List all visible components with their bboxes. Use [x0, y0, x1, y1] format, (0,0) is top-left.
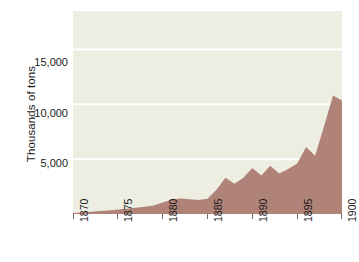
axis-tick-1895 [297, 214, 298, 219]
y-axis-tick-labels: 15,000 10,000 5,000 [12, 0, 68, 262]
x-tick-label-1885: 1885 [212, 199, 224, 222]
x-tick-label-1875: 1875 [122, 199, 134, 222]
axis-tick-1875 [117, 214, 118, 219]
axis-tick-1870 [73, 214, 74, 219]
y-tick-label-15000: 15,000 [16, 56, 68, 68]
x-tick-label-1895: 1895 [302, 199, 314, 222]
axis-tick-1885 [207, 214, 208, 219]
area-chart-svg [73, 11, 342, 214]
x-tick-label-1870: 1870 [78, 199, 90, 222]
axis-tick-1890 [252, 214, 253, 219]
chart-container: Thousands of tons 15,000 10,000 5,000 18… [0, 0, 359, 262]
area-series-production [73, 95, 342, 214]
y-tick-label-10000: 10,000 [16, 107, 68, 119]
x-tick-label-1890: 1890 [257, 199, 269, 222]
gridlines [73, 49, 342, 159]
x-tick-label-1880: 1880 [167, 199, 179, 222]
axis-tick-1880 [162, 214, 163, 219]
x-tick-label-1900: 1900 [346, 199, 358, 222]
axis-tick-1900 [341, 214, 342, 219]
plot-area [73, 11, 342, 214]
y-tick-label-5000: 5,000 [16, 157, 68, 169]
